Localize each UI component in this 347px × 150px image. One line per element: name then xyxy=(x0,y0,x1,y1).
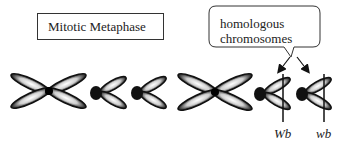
title-label: Mitotic Metaphase xyxy=(48,19,146,35)
chromosome-small-2 xyxy=(131,74,168,112)
centromere xyxy=(45,87,53,95)
callout-line-1: homologous xyxy=(220,16,292,31)
callout-text: homologous chromosomes xyxy=(220,16,292,46)
chromosome-small-1 xyxy=(90,74,128,112)
arrow-left xyxy=(280,57,290,70)
label-wb: wb xyxy=(316,126,331,142)
callout-line-2: chromosomes xyxy=(220,31,292,46)
chromosome-homolog-wb xyxy=(296,74,333,122)
title-box: Mitotic Metaphase xyxy=(37,13,164,40)
arrow-right xyxy=(297,57,307,70)
label-Wb: Wb xyxy=(274,126,291,142)
centromere xyxy=(211,88,219,96)
chromosome-homolog-Wb xyxy=(254,74,292,122)
chromosome-large-1 xyxy=(9,70,88,112)
chromosome-large-2 xyxy=(176,70,254,114)
